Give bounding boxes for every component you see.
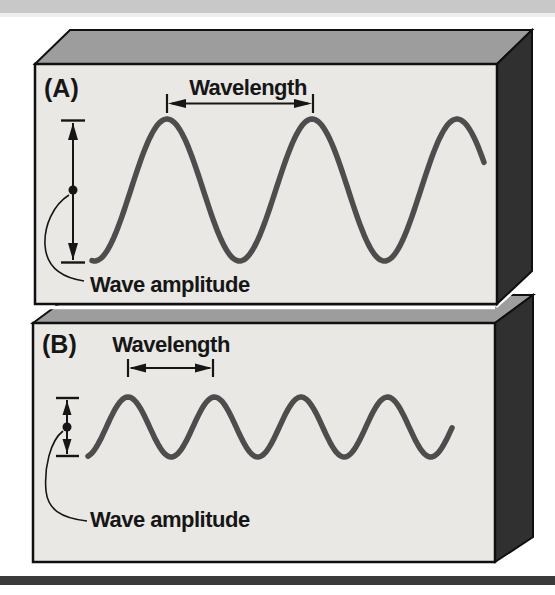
panel-a-amplitude-label: Wave amplitude xyxy=(90,272,250,297)
panel-a-label: (A) xyxy=(44,74,79,102)
panel-a-wavelength-label: Wavelength xyxy=(189,75,307,100)
wave-diagram-canvas: (A) Wavelength Wave amplitude (B) Wavele… xyxy=(0,0,555,595)
panel-a-side-face xyxy=(497,30,532,304)
panel-b-amplitude-label: Wave amplitude xyxy=(90,507,250,532)
midline-dot-icon xyxy=(69,186,78,195)
panel-b-wavelength-label: Wavelength xyxy=(112,332,230,357)
figure: (A) Wavelength Wave amplitude (B) Wavele… xyxy=(0,0,555,595)
bottom-accent-bar xyxy=(0,576,555,585)
panel-b-side-face xyxy=(495,295,533,562)
midline-dot-icon xyxy=(63,423,72,432)
top-accent-bar xyxy=(0,0,555,13)
panel-a-top-face xyxy=(35,30,532,64)
panel-a-front-face xyxy=(35,64,497,304)
panel-b-label: (B) xyxy=(42,330,77,358)
top-accent-bar-fade xyxy=(0,13,555,17)
